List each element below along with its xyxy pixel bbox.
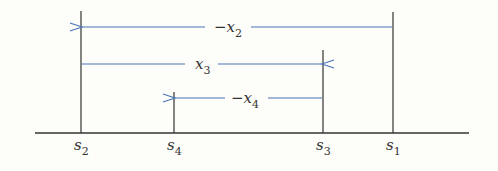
arrow-neg-x4: −x4 — [175, 89, 322, 111]
diagram-canvas: s2 s4 s3 s1 −x2 x3 — [0, 0, 498, 171]
arrow-x3: x3 — [82, 55, 322, 77]
arrow-label-neg-x2: −x2 — [214, 18, 242, 40]
point-label-s2: s2 — [74, 136, 89, 158]
displacement-diagram: s2 s4 s3 s1 −x2 x3 — [0, 0, 498, 171]
point-label-s1: s1 — [386, 136, 401, 158]
arrow-label-x3: x3 — [195, 55, 210, 77]
arrow-neg-x2: −x2 — [82, 18, 392, 40]
arrow-label-neg-x4: −x4 — [231, 89, 259, 111]
point-label-s3: s3 — [316, 136, 331, 158]
point-label-s4: s4 — [167, 136, 182, 158]
